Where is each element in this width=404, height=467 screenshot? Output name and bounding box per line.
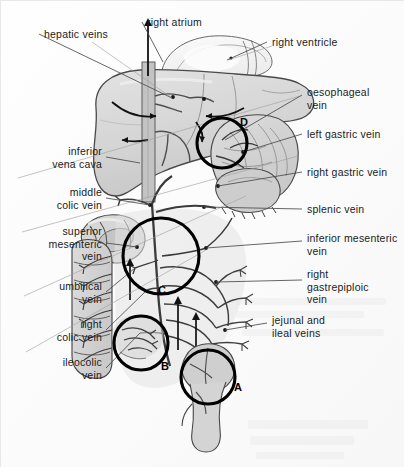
label-right-gastric-vein: right gastric vein: [307, 166, 387, 179]
label-right-ventricle: right ventricle: [272, 36, 338, 49]
marker-letter-c: C: [158, 284, 166, 296]
label-oesophageal-vein: oesophageal vein: [307, 86, 369, 111]
label-superior-mesenteric-vein: superior mesenteric vein: [18, 225, 102, 263]
marker-letter-d: D: [240, 116, 248, 128]
marker-letter-b: B: [161, 360, 169, 372]
anatomy-figure: hepatic veinsright atriumright ventricle…: [0, 0, 404, 467]
label-inferior-vena-cava: inferior vena cava: [18, 145, 102, 170]
label-ileocolic-vein: ileocolic vein: [18, 356, 102, 381]
label-left-gastric-vein: left gastric vein: [307, 128, 381, 141]
label-umbilical-vein: umbilical vein: [18, 280, 102, 305]
label-right-gastrepiploic-vein: right gastrepiploic vein: [307, 268, 369, 306]
label-splenic-vein: splenic vein: [307, 203, 364, 216]
label-right-colic-vein: right colic vein: [18, 318, 102, 343]
marker-letter-a: A: [234, 381, 242, 393]
label-middle-colic-vein: middle colic vein: [18, 186, 102, 211]
label-right-atrium: right atrium: [147, 16, 202, 29]
label-inferior-mesenteric-vein: inferior mesenteric vein: [307, 232, 397, 257]
label-hepatic-veins: hepatic veins: [44, 28, 108, 41]
label-jejunal-and-ileal-veins: jejunal and ileal veins: [272, 314, 325, 339]
